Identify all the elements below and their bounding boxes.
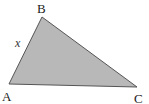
side-label-ab: x bbox=[14, 36, 21, 50]
vertex-label-b: B bbox=[37, 1, 46, 16]
triangle-diagram: A B C x bbox=[0, 0, 149, 104]
triangle-abc bbox=[9, 17, 137, 87]
vertex-label-a: A bbox=[2, 89, 12, 104]
vertex-label-c: C bbox=[134, 91, 143, 104]
